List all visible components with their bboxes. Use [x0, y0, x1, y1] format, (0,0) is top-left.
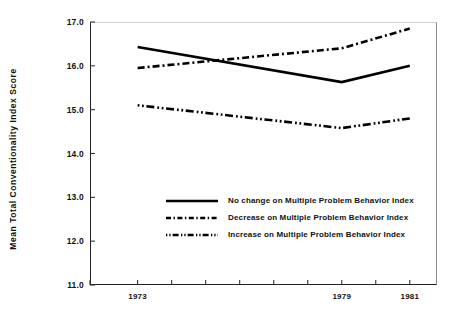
legend-label: No change on Multiple Problem Behavior I…: [228, 196, 414, 205]
legend-item: Increase on Multiple Problem Behavior In…: [166, 226, 416, 243]
legend-label: Increase on Multiple Problem Behavior In…: [228, 230, 405, 239]
legend-item: No change on Multiple Problem Behavior I…: [166, 192, 416, 209]
x-tick-label: 1979: [332, 292, 351, 301]
legend-swatch-solid: [166, 196, 218, 206]
legend-item: Decrease on Multiple Problem Behavior In…: [166, 209, 416, 226]
x-tick-label: 1981: [400, 292, 419, 301]
y-axis-label: Mean Total Conventionality Index Score: [0, 0, 26, 318]
plot-frame: [90, 22, 437, 285]
legend-label: Decrease on Multiple Problem Behavior In…: [228, 213, 408, 222]
y-tick-label: 16.0: [54, 61, 84, 71]
legend-swatch-dot-dot-dash: [166, 230, 218, 240]
x-tick-label: 1973: [128, 292, 147, 301]
y-tick-label: 17.0: [54, 17, 84, 27]
legend-swatch-dash-dot: [166, 213, 218, 223]
y-tick-label: 13.0: [54, 192, 84, 202]
y-axis-tick-labels: 17.016.015.014.013.012.011.0: [52, 0, 84, 318]
y-tick-label: 14.0: [54, 149, 84, 159]
y-tick-label: 15.0: [54, 105, 84, 115]
chart-legend: No change on Multiple Problem Behavior I…: [166, 192, 416, 243]
y-tick-label: 11.0: [54, 280, 84, 290]
chart-page: Mean Total Conventionality Index Score 1…: [0, 0, 470, 318]
y-tick-label: 12.0: [54, 236, 84, 246]
